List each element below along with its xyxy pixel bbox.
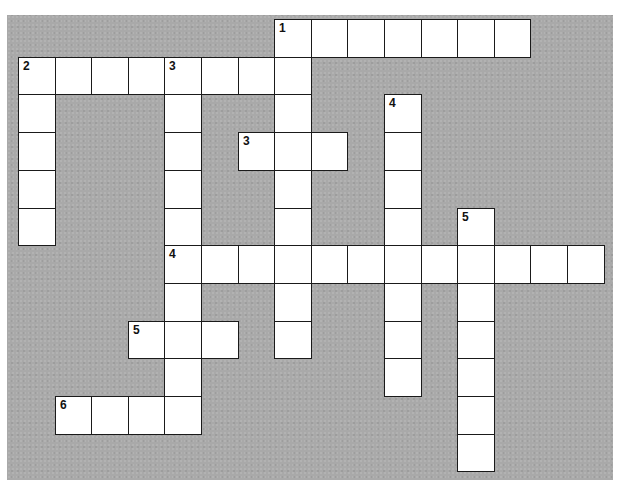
letter-input[interactable]: [495, 20, 530, 57]
letter-input[interactable]: [275, 171, 311, 208]
crossword-cell-r6-c10[interactable]: [384, 245, 422, 284]
letter-input[interactable]: [385, 209, 421, 245]
crossword-cell-r5-c7[interactable]: [274, 208, 312, 246]
letter-input[interactable]: [19, 171, 55, 208]
crossword-cell-r0-c9[interactable]: [347, 19, 385, 58]
crossword-cell-r4-c7[interactable]: [274, 170, 312, 209]
crossword-cell-r3-c4[interactable]: [164, 132, 202, 171]
letter-input[interactable]: [275, 209, 311, 245]
crossword-cell-r1-c0[interactable]: 2: [18, 57, 56, 95]
crossword-cell-r7-c4[interactable]: [164, 283, 202, 322]
crossword-cell-r3-c8[interactable]: [311, 132, 348, 171]
crossword-cell-r7-c12[interactable]: [457, 283, 495, 322]
letter-input[interactable]: [458, 20, 494, 57]
letter-input[interactable]: [129, 58, 164, 94]
letter-input[interactable]: [385, 246, 421, 283]
letter-input[interactable]: [275, 284, 311, 321]
letter-input[interactable]: [239, 58, 274, 94]
letter-input[interactable]: [458, 284, 494, 321]
crossword-cell-r7-c10[interactable]: [384, 283, 422, 322]
crossword-cell-r6-c12[interactable]: [457, 245, 495, 284]
crossword-cell-r4-c0[interactable]: [18, 170, 56, 209]
crossword-cell-r1-c3[interactable]: [128, 57, 165, 95]
crossword-cell-r5-c4[interactable]: [164, 208, 202, 246]
letter-input[interactable]: [275, 322, 311, 358]
letter-input[interactable]: [458, 246, 494, 283]
crossword-cell-r9-c12[interactable]: [457, 358, 495, 397]
letter-input[interactable]: [312, 133, 347, 170]
letter-input[interactable]: [385, 133, 421, 170]
crossword-cell-r8-c3[interactable]: 5: [128, 321, 165, 359]
letter-input[interactable]: [275, 95, 311, 132]
crossword-cell-r2-c10[interactable]: 4: [384, 94, 422, 133]
crossword-cell-r0-c12[interactable]: [457, 19, 495, 58]
letter-input[interactable]: [202, 322, 238, 358]
crossword-cell-r3-c6[interactable]: 3: [238, 132, 275, 171]
crossword-cell-r0-c10[interactable]: [384, 19, 422, 58]
crossword-cell-r10-c1[interactable]: 6: [55, 396, 92, 435]
letter-input[interactable]: [422, 20, 457, 57]
crossword-cell-r5-c10[interactable]: [384, 208, 422, 246]
letter-input[interactable]: [385, 20, 421, 57]
crossword-cell-r1-c2[interactable]: [91, 57, 129, 95]
crossword-cell-r6-c14[interactable]: [530, 245, 568, 284]
letter-input[interactable]: [165, 322, 201, 358]
crossword-cell-r0-c13[interactable]: [494, 19, 531, 58]
letter-input[interactable]: [275, 58, 311, 94]
letter-input[interactable]: [385, 322, 421, 358]
crossword-cell-r1-c5[interactable]: [201, 57, 239, 95]
letter-input[interactable]: [165, 209, 201, 245]
letter-input[interactable]: [458, 209, 494, 245]
crossword-cell-r5-c12[interactable]: 5: [457, 208, 495, 246]
letter-input[interactable]: [458, 322, 494, 358]
crossword-cell-r10-c12[interactable]: [457, 396, 495, 435]
crossword-cell-r9-c4[interactable]: [164, 358, 202, 397]
letter-input[interactable]: [348, 20, 384, 57]
crossword-cell-r8-c4[interactable]: [164, 321, 202, 359]
letter-input[interactable]: [165, 95, 201, 132]
letter-input[interactable]: [312, 20, 347, 57]
crossword-cell-r1-c6[interactable]: [238, 57, 275, 95]
letter-input[interactable]: [458, 397, 494, 434]
letter-input[interactable]: [275, 20, 311, 57]
letter-input[interactable]: [165, 171, 201, 208]
crossword-cell-r2-c7[interactable]: [274, 94, 312, 133]
letter-input[interactable]: [56, 397, 91, 434]
crossword-cell-r0-c8[interactable]: [311, 19, 348, 58]
letter-input[interactable]: [275, 133, 311, 170]
letter-input[interactable]: [495, 246, 530, 283]
crossword-cell-r10-c3[interactable]: [128, 396, 165, 435]
letter-input[interactable]: [165, 284, 201, 321]
crossword-cell-r6-c15[interactable]: [567, 245, 605, 284]
crossword-cell-r6-c11[interactable]: [421, 245, 458, 284]
letter-input[interactable]: [165, 133, 201, 170]
crossword-cell-r8-c5[interactable]: [201, 321, 239, 359]
letter-input[interactable]: [239, 133, 274, 170]
crossword-cell-r9-c10[interactable]: [384, 358, 422, 397]
crossword-cell-r10-c4[interactable]: [164, 396, 202, 435]
letter-input[interactable]: [239, 246, 274, 283]
letter-input[interactable]: [165, 58, 201, 94]
crossword-cell-r6-c7[interactable]: [274, 245, 312, 284]
crossword-cell-r6-c4[interactable]: 4: [164, 245, 202, 284]
crossword-cell-r4-c4[interactable]: [164, 170, 202, 209]
crossword-cell-r7-c7[interactable]: [274, 283, 312, 322]
letter-input[interactable]: [385, 359, 421, 396]
letter-input[interactable]: [422, 246, 457, 283]
letter-input[interactable]: [348, 246, 384, 283]
letter-input[interactable]: [458, 359, 494, 396]
crossword-cell-r3-c10[interactable]: [384, 132, 422, 171]
letter-input[interactable]: [19, 95, 55, 132]
letter-input[interactable]: [531, 246, 567, 283]
crossword-cell-r1-c7[interactable]: [274, 57, 312, 95]
crossword-cell-r0-c11[interactable]: [421, 19, 458, 58]
crossword-cell-r2-c4[interactable]: [164, 94, 202, 133]
letter-input[interactable]: [129, 397, 164, 434]
letter-input[interactable]: [385, 171, 421, 208]
letter-input[interactable]: [92, 397, 128, 434]
crossword-cell-r6-c9[interactable]: [347, 245, 385, 284]
crossword-cell-r2-c0[interactable]: [18, 94, 56, 133]
crossword-cell-r11-c12[interactable]: [457, 434, 495, 472]
letter-input[interactable]: [202, 58, 238, 94]
letter-input[interactable]: [19, 133, 55, 170]
